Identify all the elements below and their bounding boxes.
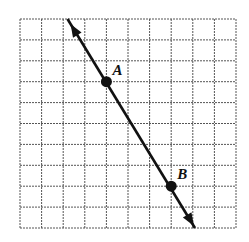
grid bbox=[20, 19, 236, 228]
coordinate-grid-figure: AB bbox=[0, 0, 249, 242]
point-label-b: B bbox=[176, 166, 187, 182]
point-b bbox=[166, 181, 177, 192]
point-a bbox=[101, 76, 112, 87]
point-label-a: A bbox=[111, 62, 122, 78]
arrowhead-top-icon bbox=[71, 24, 82, 38]
